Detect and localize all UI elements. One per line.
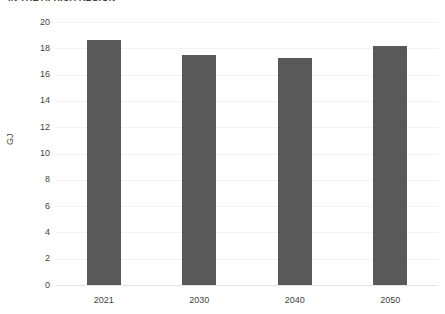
gridline (56, 285, 438, 286)
x-axis-tick-label: 2040 (285, 296, 305, 305)
y-axis-tick-label: 18 (24, 44, 50, 53)
bar[interactable] (87, 40, 121, 285)
y-axis-tick-label: 8 (24, 175, 50, 184)
plot-area (56, 22, 438, 285)
bar-slot (152, 22, 248, 285)
y-axis-tick-label: 2 (24, 254, 50, 263)
y-axis-tick-label: 16 (24, 70, 50, 79)
bar-slot (247, 22, 343, 285)
y-axis-tick-label: 20 (24, 18, 50, 27)
y-axis-tick-label: 12 (24, 123, 50, 132)
y-axis-tick-label: 0 (24, 281, 50, 290)
bar[interactable] (278, 58, 312, 285)
bar-slot (56, 22, 152, 285)
y-axis-tick-label: 6 (24, 202, 50, 211)
y-axis-tick-label: 4 (24, 228, 50, 237)
y-axis-tick-label: 10 (24, 149, 50, 158)
bar[interactable] (182, 55, 216, 285)
x-axis-tick-label: 2021 (94, 296, 114, 305)
y-axis-tick-label: 14 (24, 96, 50, 105)
y-axis-title: GJ (5, 133, 15, 145)
y-axis-tick-labels: 20181614121086420 (20, 22, 50, 285)
bar-slot (343, 22, 439, 285)
bar[interactable] (373, 46, 407, 285)
x-axis-tick-label: 2030 (189, 296, 209, 305)
chart-title: IN THE AFRICA REGION (8, 0, 115, 4)
x-axis-tick-label: 2050 (380, 296, 400, 305)
bar-chart: IN THE AFRICA REGION GJ 2018161412108642… (0, 0, 445, 314)
